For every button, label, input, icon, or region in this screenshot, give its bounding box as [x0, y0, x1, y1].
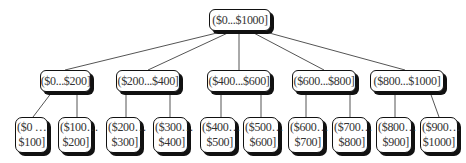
leaf-line1: ($300…: [154, 120, 193, 135]
tree-diagram: ($0...$1000] ($0...$200] ($200...$400] (…: [0, 0, 466, 163]
node-label: ($0...$200]: [41, 74, 91, 88]
leaf-line2: $100]: [19, 135, 48, 150]
node-label: ($200...$400]: [117, 74, 178, 88]
leaf-line1: ($600…: [289, 120, 328, 135]
node-label: ($600...$800]: [293, 74, 354, 88]
node-label: ($0...$1000]: [212, 13, 267, 27]
leaf-line1: ($500…: [244, 120, 283, 135]
leaf-line2: $600]: [250, 135, 279, 150]
node-200-400: ($200...$400]: [116, 70, 180, 92]
edge-root-200-400: [148, 31, 232, 70]
node-root: ($0...$1000]: [209, 9, 271, 31]
leaf-line2: $200]: [63, 135, 92, 150]
node-400-600: ($400...$600]: [207, 70, 271, 92]
leaf-line1: ($0 …: [16, 120, 47, 135]
leaf-line2: $500]: [207, 135, 236, 150]
leaf-line1: ($900…: [421, 120, 460, 135]
leaf-200-300: ($200… $300]: [106, 117, 141, 153]
edge-root-600-800: [250, 31, 324, 70]
leaf-600-700: ($600… $700]: [288, 117, 324, 153]
leaf-300-400: ($300… $400]: [153, 117, 188, 153]
leaf-line2: $400]: [159, 135, 188, 150]
leaf-100-200: ($100… $200]: [58, 117, 92, 153]
leaf-400-500: ($400… $500]: [200, 117, 236, 153]
leaf-line2: $700]: [295, 135, 324, 150]
leaf-line2: $900]: [383, 135, 412, 150]
node-600-800: ($600...$800]: [292, 70, 356, 92]
leaf-500-600: ($500… $600]: [243, 117, 279, 153]
edge-800-1000-to-900-1000: [430, 92, 439, 117]
leaf-700-800: ($700… $800]: [332, 117, 368, 153]
node-label: ($800...$1000]: [374, 74, 441, 88]
leaf-0-100: ($0 … $100]: [15, 117, 48, 153]
edge-0-200-to-0-100: [33, 92, 52, 117]
node-label: ($400...$600]: [208, 74, 269, 88]
leaf-line1: ($100…: [59, 120, 98, 135]
node-800-1000: ($800...$1000]: [370, 70, 444, 92]
node-0-200: ($0...$200]: [40, 70, 91, 92]
leaf-line2: $800]: [339, 135, 368, 150]
leaf-800-900: ($800… $900]: [376, 117, 412, 153]
leaf-line1: ($800…: [377, 120, 416, 135]
edge-root-0-200: [65, 31, 225, 70]
leaf-line1: ($700…: [333, 120, 372, 135]
leaf-line2: $1000]: [423, 135, 457, 150]
leaf-line1: ($400…: [201, 120, 240, 135]
leaf-line2: $300]: [112, 135, 141, 150]
edge-root-800-1000: [262, 31, 405, 70]
leaf-line1: ($200…: [107, 120, 146, 135]
leaf-900-1000: ($900… $1000]: [420, 117, 458, 153]
